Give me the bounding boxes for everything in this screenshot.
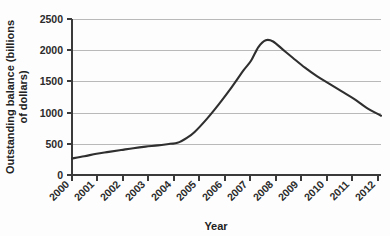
- y-tick-label-1500: 1500: [40, 75, 64, 87]
- x-tick-label-2010: 2010: [301, 178, 326, 203]
- y-tick-label-2500: 2500: [40, 13, 64, 25]
- x-tick-label-2011: 2011: [327, 178, 352, 203]
- x-tick-label-2006: 2006: [199, 178, 224, 203]
- x-axis-title: Year: [204, 220, 228, 232]
- x-tick-labels: 2000 2001 2002 2003 2004 2005 2006 2007 …: [46, 178, 377, 203]
- x-tick-label-2002: 2002: [97, 178, 122, 203]
- x-tick-label-2004: 2004: [148, 178, 173, 203]
- x-tick-label-2001: 2001: [71, 178, 96, 203]
- y-tick-label-2000: 2000: [40, 44, 64, 56]
- x-tick-label-2008: 2008: [250, 178, 275, 203]
- x-tick-label-2007: 2007: [224, 178, 249, 203]
- x-tick-label-2000: 2000: [46, 178, 71, 203]
- x-tick-label-2005: 2005: [173, 178, 198, 203]
- line-chart: 2500 2000 1500 1000 500 0 2000 2001 200: [0, 0, 390, 236]
- y-tick-labels: 2500 2000 1500 1000 500 0: [40, 13, 64, 181]
- x-tick-label-2003: 2003: [122, 178, 147, 203]
- x-tick-label-2009: 2009: [275, 178, 300, 203]
- data-series-line: [72, 40, 381, 159]
- gridlines: [72, 19, 381, 144]
- y-axis-title-line1: Outstanding balance (billions: [4, 20, 16, 174]
- y-tick-label-1000: 1000: [40, 107, 64, 119]
- y-axis-ticks: [67, 19, 72, 175]
- x-axis-ticks: [72, 175, 378, 181]
- x-tick-label-2012: 2012: [352, 178, 377, 203]
- chart-page: 2500 2000 1500 1000 500 0 2000 2001 200: [0, 0, 390, 236]
- y-axis-title-line2: of dollars): [17, 70, 29, 124]
- y-tick-label-500: 500: [45, 138, 63, 150]
